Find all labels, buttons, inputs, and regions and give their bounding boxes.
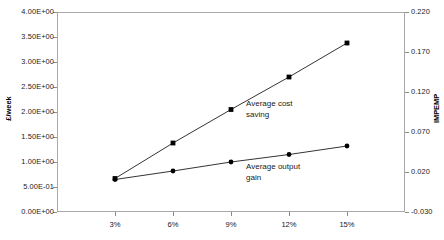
y-axis-left-tick-label: 5.00E-01 <box>0 183 54 191</box>
x-axis-tick <box>173 212 174 216</box>
y-axis-right-tick <box>405 92 409 93</box>
y-axis-right-tick-label: -0.030 <box>411 208 444 216</box>
x-axis-tick-label: 6% <box>153 220 193 229</box>
chart-container: 0.00E+005.00E-011.00E+001.50E+002.00E+00… <box>0 0 444 240</box>
y-axis-right-tick-label: 0.170 <box>411 48 444 56</box>
x-axis-tick-label: 9% <box>211 220 251 229</box>
annotation-average-cost-saving: Average cost saving <box>246 99 293 120</box>
y-axis-right-tick <box>405 172 409 173</box>
annotation-average-output-gain: Average output gain <box>246 162 300 183</box>
x-axis-tick-label: 3% <box>95 220 135 229</box>
y-axis-right-tick-label: 0.020 <box>411 168 444 176</box>
y-axis-left-tick-label: 3.50E+00 <box>0 33 54 41</box>
x-axis-tick <box>289 212 290 216</box>
y-axis-right-tick <box>405 132 409 133</box>
y-axis-right-tick <box>405 52 409 53</box>
x-axis-tick <box>115 212 116 216</box>
plot-area-frame <box>57 12 405 212</box>
y-axis-left-title: £/week <box>4 79 13 139</box>
y-axis-right-title: IMPEMP <box>432 79 441 139</box>
y-axis-left-tick-label: 3.00E+00 <box>0 58 54 66</box>
y-axis-left-tick-label: 0.00E+00 <box>0 208 54 216</box>
x-axis-tick-label: 15% <box>327 220 367 229</box>
y-axis-left-tick-label: 4.00E+00 <box>0 8 54 16</box>
y-axis-right-tick <box>405 12 409 13</box>
y-axis-right-tick-label: 0.220 <box>411 8 444 16</box>
x-axis-tick <box>347 212 348 216</box>
y-axis-left-tick-label: 1.00E+00 <box>0 158 54 166</box>
x-axis-tick <box>231 212 232 216</box>
x-axis-tick-label: 12% <box>269 220 309 229</box>
y-axis-right-tick <box>405 212 409 213</box>
